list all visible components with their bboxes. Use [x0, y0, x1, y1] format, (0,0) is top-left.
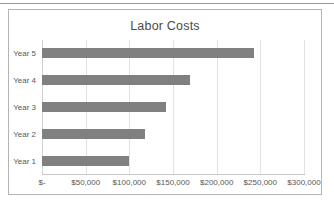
plot-area: Year 5 Year 4 Year 3 Year 2 Year 1 [42, 40, 304, 174]
chart-title: Labor Costs [9, 19, 321, 33]
bar-year-3[interactable] [42, 102, 166, 112]
gridline-200000 [217, 40, 218, 174]
x-axis-tick-150000: $150,000 [156, 178, 189, 187]
bar-year-5[interactable] [42, 48, 254, 58]
bar-year-2[interactable] [42, 129, 145, 139]
gridline-250000 [260, 40, 261, 174]
y-axis-label-year-1: Year 1 [13, 156, 36, 165]
x-axis-line [42, 174, 305, 175]
y-axis-label-year-4: Year 4 [13, 76, 36, 85]
x-axis-tick-0: $- [38, 178, 45, 187]
document-top-rule [0, 3, 334, 4]
x-axis-tick-250000: $250,000 [244, 178, 277, 187]
y-axis-label-year-3: Year 3 [13, 102, 36, 111]
x-axis-tick-50000: $50,000 [71, 178, 100, 187]
x-axis-tick-100000: $100,000 [113, 178, 146, 187]
x-axis-tick-300000: $300,000 [287, 178, 320, 187]
gridline-300000 [304, 40, 305, 174]
x-axis-tick-200000: $200,000 [200, 178, 233, 187]
bar-year-1[interactable] [42, 156, 129, 166]
bar-year-4[interactable] [42, 75, 190, 85]
y-axis-label-year-5: Year 5 [13, 49, 36, 58]
gridline-150000 [173, 40, 174, 174]
y-axis-label-year-2: Year 2 [13, 129, 36, 138]
chart-object[interactable]: Labor Costs Year 5 Year 4 Year 3 Year 2 … [8, 9, 322, 195]
